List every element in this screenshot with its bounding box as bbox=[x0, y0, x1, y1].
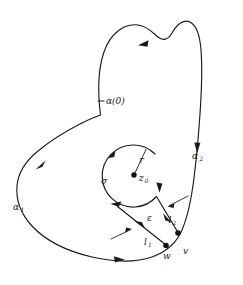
w-vertex-dot bbox=[163, 243, 169, 249]
label-alpha-two-base: α bbox=[192, 151, 198, 161]
label-segment-two: l 2 bbox=[169, 215, 177, 227]
label-sigma: σ bbox=[101, 176, 108, 186]
outer-top-arrow-icon bbox=[138, 40, 149, 47]
label-segment-one-sub: 1 bbox=[148, 241, 152, 248]
sigma-right-arrow-icon bbox=[156, 183, 162, 193]
labels-group: α(0) α 1 α 2 σ r z 0 ε bbox=[13, 96, 204, 261]
label-segment-two-base: l bbox=[169, 215, 172, 225]
label-segment-two-sub: 2 bbox=[172, 219, 177, 226]
label-epsilon: ε bbox=[147, 213, 152, 223]
z0-center-dot bbox=[131, 172, 136, 177]
sigma-circle-group bbox=[102, 145, 156, 207]
label-alpha-two: α 2 bbox=[192, 151, 204, 163]
label-point-w: w bbox=[163, 251, 171, 261]
label-alpha-one-base: α bbox=[13, 202, 19, 212]
outer-left-arrow-icon bbox=[36, 161, 46, 170]
slit-arrowheads bbox=[135, 213, 172, 228]
label-radius-r: r bbox=[140, 155, 145, 165]
label-alpha-one: α 1 bbox=[13, 202, 24, 214]
label-alpha-two-sub: 2 bbox=[199, 155, 204, 162]
v-vertex-dot bbox=[175, 230, 181, 236]
slit-line-l2 bbox=[157, 197, 179, 233]
label-segment-one-base: l bbox=[144, 237, 147, 247]
sigma-circle-arc bbox=[102, 145, 156, 207]
label-point-v: v bbox=[183, 246, 188, 256]
keyhole-contour-diagram: α(0) α 1 α 2 σ r z 0 ε bbox=[0, 0, 243, 285]
epsilon-pointer-lower-line bbox=[111, 230, 130, 239]
label-center-base: z bbox=[138, 173, 144, 183]
label-alpha-zero: α(0) bbox=[106, 96, 125, 106]
epsilon-pointer-lower-arrow-icon bbox=[125, 228, 132, 233]
figure-root: α(0) α 1 α 2 σ r z 0 ε bbox=[0, 0, 243, 285]
epsilon-pointer-upper-line bbox=[170, 196, 189, 206]
label-segment-one: l 1 bbox=[144, 237, 152, 249]
epsilon-pointer-upper-arrow-icon bbox=[168, 203, 175, 208]
outer-bottom-arrow-icon bbox=[114, 256, 125, 262]
label-alpha-one-sub: 1 bbox=[21, 206, 25, 213]
label-center-sub: 0 bbox=[145, 177, 149, 184]
label-center-z0: z 0 bbox=[138, 173, 149, 185]
